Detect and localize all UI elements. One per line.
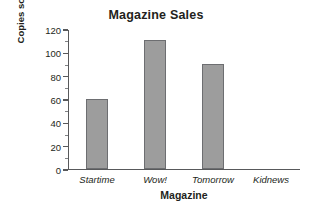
y-tick-major <box>63 146 68 147</box>
plot-area <box>68 30 300 170</box>
y-axis-title: Copies sold (thousands) <box>14 0 28 58</box>
x-tick-label: Wow! <box>143 174 167 185</box>
y-axis-line <box>68 30 69 170</box>
y-tick-minor <box>65 158 68 159</box>
y-tick-minor <box>65 65 68 66</box>
bar-tomorrow <box>202 64 224 169</box>
y-tick-major <box>63 169 68 170</box>
y-tick-minor <box>65 88 68 89</box>
y-tick-major <box>63 99 68 100</box>
x-axis-line <box>68 169 300 170</box>
x-tick-label: Kidnews <box>253 174 289 185</box>
y-tick-label: 20 <box>35 141 61 152</box>
y-tick-major <box>63 123 68 124</box>
bar-startime <box>86 99 108 169</box>
chart-figure: Magazine Sales Copies sold (thousands) 0… <box>0 0 312 210</box>
y-tick-label: 60 <box>35 95 61 106</box>
y-tick-label: 40 <box>35 118 61 129</box>
bar-wow <box>144 40 166 168</box>
y-tick-minor <box>65 135 68 136</box>
y-tick-major <box>63 76 68 77</box>
y-tick-label: 80 <box>35 71 61 82</box>
y-tick-label: 120 <box>35 25 61 36</box>
x-tick-label: Tomorrow <box>192 174 234 185</box>
x-tick-label: Startime <box>79 174 114 185</box>
chart-title: Magazine Sales <box>0 8 312 22</box>
y-tick-major <box>63 53 68 54</box>
y-tick-major <box>63 29 68 30</box>
y-tick-minor <box>65 41 68 42</box>
y-tick-label: 100 <box>35 48 61 59</box>
y-tick-minor <box>65 111 68 112</box>
y-tick-label: 0 <box>35 165 61 176</box>
x-axis-title: Magazine <box>68 189 300 201</box>
